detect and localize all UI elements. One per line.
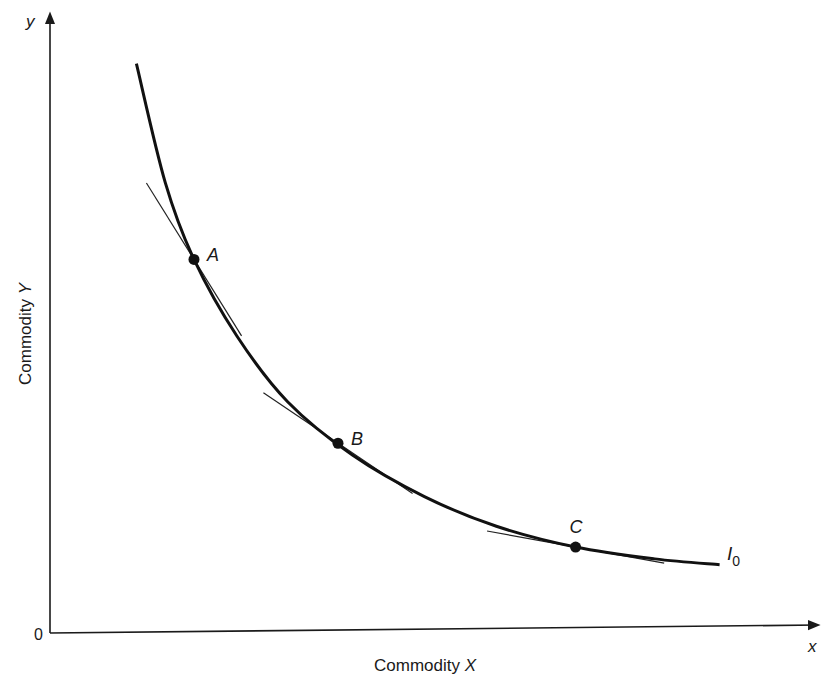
x-axis-title-var: X <box>464 656 477 675</box>
x-axis-title-text: Commodity <box>374 656 465 675</box>
y-axis-title-var: Y <box>16 281 35 294</box>
point-a <box>189 254 200 265</box>
point-label-c: C <box>570 517 584 537</box>
point-c <box>570 542 581 553</box>
indifference-curve-diagram: y x 0 Commodity X Commodity Y ABC I0 <box>0 0 830 687</box>
y-axis-title-text: Commodity <box>16 294 35 385</box>
x-axis <box>50 625 818 633</box>
x-axis-title: Commodity X <box>374 656 477 675</box>
point-b <box>333 438 344 449</box>
point-label-a: A <box>206 245 219 265</box>
origin-label: 0 <box>34 626 43 643</box>
indifference-curve-I0 <box>136 64 719 565</box>
y-axis-title: Commodity Y <box>16 281 35 385</box>
curve-label-subscript: 0 <box>732 553 740 569</box>
y-axis-end-label: y <box>25 12 36 31</box>
point-label-b: B <box>351 429 363 449</box>
curve-label: I0 <box>727 543 740 569</box>
x-axis-end-label: x <box>807 637 817 656</box>
